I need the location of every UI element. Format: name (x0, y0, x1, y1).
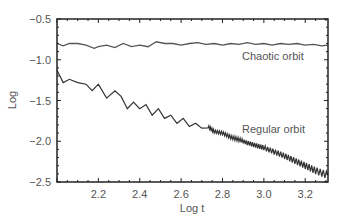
x-tick-label: 3.0 (256, 188, 271, 200)
annotation-regular-orbit: Regular orbit (242, 123, 305, 135)
x-tick-label: 2.6 (173, 188, 188, 200)
y-tick-label: −2.5 (29, 176, 51, 188)
y-tick-labels: −0.5−1.0−1.5−2.0−2.5 (29, 13, 51, 188)
x-tick-label: 2.2 (91, 188, 106, 200)
y-tick-label: −1.5 (29, 95, 51, 107)
y-axis-title: Log (6, 91, 18, 109)
y-tick-label: −1.0 (29, 54, 51, 66)
x-tick-labels: 2.22.42.62.83.03.2 (91, 188, 313, 200)
y-tick-label: −0.5 (29, 13, 51, 25)
x-tick-label: 3.2 (298, 188, 313, 200)
series-line (57, 42, 328, 49)
x-tick-label: 2.4 (132, 188, 147, 200)
x-axis-title: Log t (180, 202, 204, 214)
chart: 2.22.42.62.83.03.2 −0.5−1.0−1.5−2.0−2.5 … (0, 0, 340, 216)
plot-lines (57, 42, 328, 178)
x-tick-label: 2.8 (215, 188, 230, 200)
annotation-chaotic-orbit: Chaotic orbit (242, 50, 304, 62)
y-tick-label: −2.0 (29, 135, 51, 147)
